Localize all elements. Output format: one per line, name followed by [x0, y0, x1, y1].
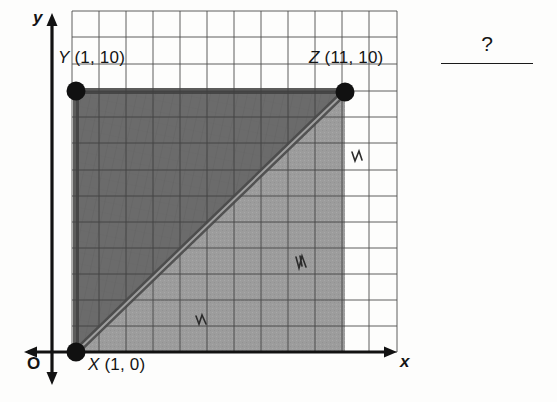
point-z-marker[interactable]	[336, 83, 355, 102]
point-label-y-var: Y	[58, 48, 70, 67]
point-label-x-var: X	[88, 355, 100, 374]
point-label-y-coords: (1, 10)	[74, 48, 125, 67]
x-axis-arrow-right	[384, 347, 397, 358]
point-y-marker[interactable]	[67, 82, 86, 101]
point-label-z: Z (11, 10)	[309, 48, 383, 68]
question-mark: ?	[437, 32, 537, 56]
point-label-z-var: Z	[309, 48, 320, 67]
origin-label: O	[27, 354, 40, 374]
answer-underline	[441, 63, 533, 64]
x-axis-label: x	[400, 352, 409, 372]
y-axis-arrow-down	[47, 372, 58, 385]
point-x-marker[interactable]	[67, 343, 86, 362]
point-label-z-coords: (11, 10)	[325, 48, 384, 67]
y-axis-label: y	[33, 8, 42, 28]
point-label-x: X (1, 0)	[88, 355, 145, 375]
point-label-y: Y (1, 10)	[58, 48, 125, 68]
answer-blank[interactable]: ?	[437, 32, 537, 72]
worksheet-figure: Y (1, 10) Z (11, 10) X (1, 0) y x O ?	[0, 0, 557, 402]
point-label-x-coords: (1, 0)	[104, 355, 145, 374]
scribble-mark-1	[352, 151, 362, 161]
y-axis-arrow-up	[47, 13, 58, 26]
